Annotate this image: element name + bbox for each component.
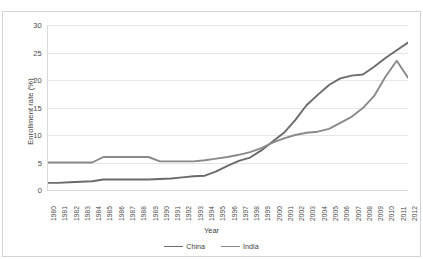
x-tick-label: 1985 <box>106 206 113 221</box>
x-tick-label: 2000 <box>276 206 283 221</box>
y-axis-line <box>47 25 48 191</box>
series-line-china <box>47 43 408 183</box>
series-lines <box>47 25 408 191</box>
x-tick-label: 1981 <box>61 206 68 221</box>
x-tick-label: 2003 <box>309 206 316 221</box>
x-tick-label: 2004 <box>321 206 328 221</box>
x-tick-label: 1989 <box>152 206 159 221</box>
x-tick-label: 1994 <box>208 206 215 221</box>
x-tick-label: 2007 <box>355 206 362 221</box>
x-tick-label: 1983 <box>84 206 91 221</box>
legend-item-china[interactable]: China <box>164 242 205 251</box>
x-tick-label: 1996 <box>231 206 238 221</box>
x-tick-label: 1986 <box>118 206 125 221</box>
x-tick-label: 2001 <box>287 206 294 221</box>
x-tick-label: 2011 <box>400 206 407 221</box>
x-tick-label: 1998 <box>253 206 260 221</box>
x-tick-label: 1982 <box>73 206 80 221</box>
plot-area <box>47 25 408 190</box>
x-tick-label: 1987 <box>129 206 136 221</box>
y-tick-label: 30 <box>16 21 42 30</box>
x-tick-label: 2005 <box>332 206 339 221</box>
y-axis-title: Enrollment rate (%) <box>26 52 35 172</box>
x-tick-label: 1993 <box>197 206 204 221</box>
x-tick-label: 1980 <box>50 206 57 221</box>
legend-item-india[interactable]: India <box>221 242 259 251</box>
x-tick-label: 1999 <box>264 206 271 221</box>
legend-swatch-icon <box>164 246 183 248</box>
x-tick-label: 2002 <box>298 206 305 221</box>
x-tick-label: 1990 <box>163 206 170 221</box>
x-tick-label: 1984 <box>95 206 102 221</box>
legend-swatch-icon <box>221 246 240 248</box>
x-tick-label: 2009 <box>377 206 384 221</box>
x-tick-label: 1997 <box>242 206 249 221</box>
x-tick-label: 2006 <box>343 206 350 221</box>
x-tick-label: 1995 <box>219 206 226 221</box>
legend-label: China <box>186 242 205 251</box>
legend-label: India <box>243 242 259 251</box>
x-tick-label: 2008 <box>366 206 373 221</box>
x-tick-label: 1992 <box>185 206 192 221</box>
chart-legend: ChinaIndia <box>0 242 423 251</box>
x-axis-title: Year <box>0 226 423 235</box>
x-tick-label: 1988 <box>140 206 147 221</box>
x-axis-tick-labels: 1980198119821983198419851986198719881989… <box>47 191 408 225</box>
x-tick-label: 2012 <box>411 206 418 221</box>
x-tick-label: 1991 <box>174 206 181 221</box>
x-tick-label: 2010 <box>388 206 395 221</box>
chart-figure: 302520151050 Enrollment rate (%) 1980198… <box>0 0 423 259</box>
y-tick-label: 0 <box>16 186 42 195</box>
